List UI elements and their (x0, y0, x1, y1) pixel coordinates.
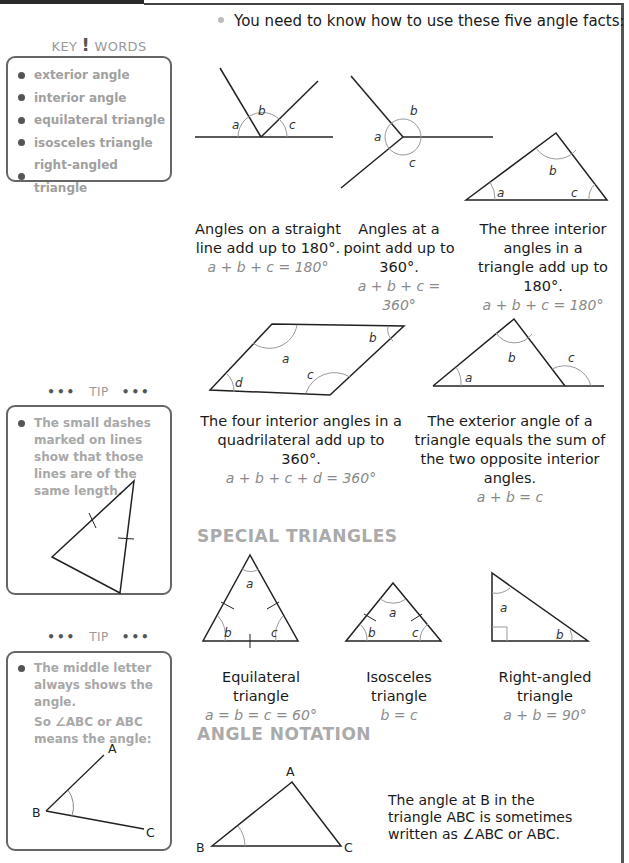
bullet-icon (18, 94, 25, 101)
exterior-angle-diagram: a b c (433, 319, 604, 386)
tip-2-box: The middle letter always shows the angle… (6, 651, 172, 851)
fact-quadrilateral: The four interior angles in a quadrilate… (197, 412, 405, 488)
svg-text:b: b (368, 626, 376, 640)
quadrilateral-diagram: a b c d (210, 324, 404, 395)
key-word-item: exterior angle (18, 64, 170, 87)
triangle-equation: a + b = 90° (470, 706, 620, 725)
svg-text:b: b (369, 331, 377, 345)
straight-line-diagram: a b c (195, 68, 333, 137)
special-triangles-diagrams: a b c a b c a b (190, 550, 610, 650)
facts-row-1-diagrams: a b c a b c a b c (190, 40, 629, 210)
fact-caption: Angles on a straight line add up to 180°… (193, 220, 343, 258)
dots-icon: ••• (47, 630, 76, 644)
fact-equation: a + b + c = 180° (474, 296, 612, 315)
key-word-item: isosceles triangle (18, 132, 170, 155)
fact-equation: a + b + c = 180° (193, 258, 343, 277)
svg-text:A: A (108, 741, 117, 756)
svg-text:b: b (508, 351, 516, 365)
key-word-label: exterior angle (34, 64, 130, 87)
fact-equation: a + b + c = 360° (340, 277, 458, 315)
svg-text:b: b (549, 164, 557, 178)
bullet-icon (18, 139, 25, 146)
exclamation-icon: ! (82, 34, 91, 55)
angle-notation-triangle: A B C (190, 760, 370, 855)
fact-straight-line: Angles on a straight line add up to 180°… (193, 220, 343, 277)
fact-caption: Angles at a point add up to 360°. (340, 220, 458, 277)
key-word-label: equilateral triangle (34, 109, 165, 132)
fact-caption: The three interior angles in a triangle … (474, 220, 612, 296)
key-word-item: equilateral triangle (18, 109, 170, 132)
svg-text:a: a (500, 601, 507, 615)
svg-text:c: c (412, 626, 419, 640)
right-angled-info: Right-angled triangle a + b = 90° (470, 668, 620, 725)
tip-1-title: ••• TIP ••• (0, 385, 198, 399)
bullet-icon (18, 117, 25, 124)
svg-text:a: a (497, 186, 504, 200)
bullet-icon (218, 17, 224, 23)
bullet-icon (18, 72, 25, 79)
svg-text:b: b (224, 626, 232, 640)
fact-equation: a + b + c + d = 360° (197, 469, 405, 488)
svg-text:c: c (571, 186, 578, 200)
svg-text:a: a (465, 371, 472, 385)
svg-text:a: a (246, 577, 253, 591)
svg-text:c: c (409, 156, 416, 170)
fact-angles-at-point: Angles at a point add up to 360°. a + b … (340, 220, 458, 315)
svg-text:c: c (307, 368, 314, 382)
fact-exterior-angle: The exterior angle of a triangle equals … (404, 412, 616, 507)
svg-text:c: c (289, 118, 296, 132)
fact-equation: a + b = c (404, 488, 616, 507)
bullet-icon (18, 173, 25, 180)
tip-2-title: ••• TIP ••• (0, 630, 198, 644)
tip-1-title-label: TIP (89, 385, 109, 399)
top-dark-bar (0, 0, 144, 4)
intro-text: You need to know how to use these five a… (218, 12, 625, 30)
triangle-equation: a = b = c = 60° (193, 706, 329, 725)
svg-text:a: a (232, 118, 239, 132)
key-words-title-right: WORDS (95, 39, 147, 54)
key-word-label: interior angle (34, 87, 126, 110)
fact-triangle-interior: The three interior angles in a triangle … (474, 220, 612, 315)
dots-icon: ••• (122, 385, 151, 399)
key-word-label: right-angled triangle (34, 154, 170, 199)
svg-text:b: b (410, 104, 418, 118)
triangle-interior-diagram: a b c (466, 133, 607, 200)
triangle-name: Isosceles triangle (336, 668, 462, 706)
angle-notation-text: The angle at B in the triangle ABC is so… (388, 792, 588, 843)
tip-2-title-label: TIP (89, 630, 109, 644)
svg-text:B: B (196, 840, 205, 855)
equilateral-info: Equilateral triangle a = b = c = 60° (193, 668, 329, 725)
svg-text:C: C (344, 840, 353, 855)
svg-text:d: d (235, 376, 243, 390)
right-angled-triangle-diagram: a b (492, 573, 588, 642)
svg-text:c: c (271, 626, 278, 640)
fact-caption: The four interior angles in a quadrilate… (197, 412, 405, 469)
dots-icon: ••• (47, 385, 76, 399)
tip-1-box: The small dashes marked on lines show th… (6, 405, 172, 595)
svg-text:a: a (282, 352, 289, 366)
svg-text:b: b (556, 628, 564, 642)
fact-caption: The exterior angle of a triangle equals … (404, 412, 616, 488)
key-words-title: KEY ! WORDS (0, 34, 198, 55)
facts-row-2-diagrams: a b c d a b c (190, 315, 610, 400)
svg-text:A: A (286, 764, 295, 779)
svg-text:c: c (568, 351, 575, 365)
intro-label: You need to know how to use these five a… (234, 12, 625, 30)
triangle-equation: b = c (336, 706, 462, 725)
triangle-name: Right-angled triangle (470, 668, 620, 706)
angle-notation-heading: ANGLE NOTATION (197, 724, 371, 744)
angles-at-point-diagram: a b c (341, 76, 493, 188)
key-word-label: isosceles triangle (34, 132, 153, 155)
svg-text:a: a (389, 606, 396, 620)
key-word-item: right-angled triangle (18, 154, 170, 199)
isosceles-triangle-diagram: a b c (346, 583, 441, 641)
special-triangles-heading: SPECIAL TRIANGLES (197, 526, 398, 546)
dashed-triangle-diagram (8, 407, 174, 597)
equilateral-triangle-diagram: a b c (203, 555, 298, 648)
dots-icon: ••• (122, 630, 151, 644)
angle-abc-diagram: A B C (8, 653, 174, 853)
triangle-name: Equilateral triangle (193, 668, 329, 706)
key-word-item: interior angle (18, 87, 170, 110)
key-words-title-left: KEY (52, 39, 78, 54)
key-words-box: exterior angle interior angle equilatera… (6, 56, 172, 182)
